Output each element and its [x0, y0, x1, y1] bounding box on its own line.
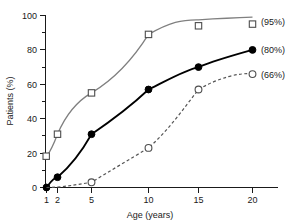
series-label-66pct: (66%) [261, 70, 285, 80]
x-tick-label-5: 5 [89, 195, 94, 205]
y-axis-title: Patients (%) [5, 76, 15, 125]
series-label-80pct: (80%) [261, 45, 285, 55]
series-label-95pct: (95%) [261, 17, 285, 27]
x-tick-label-1: 1 [44, 195, 49, 205]
data-point-66pct-15yr [195, 86, 202, 93]
y-tick-label-100: 100 [22, 11, 37, 21]
data-point-80pct-10yr [145, 86, 152, 93]
y-tick-label-20: 20 [27, 149, 37, 159]
y-tick-label-40: 40 [27, 114, 37, 124]
x-tick-label-10: 10 [143, 195, 153, 205]
y-tick-label-60: 60 [27, 80, 37, 90]
x-tick-label-2: 2 [55, 195, 60, 205]
x-tick-label-15: 15 [193, 195, 203, 205]
data-point-80pct-2yr [54, 174, 61, 181]
line-chart-plot: 100 80 60 40 20 0 1 2 5 10 15 20 Age (ye… [0, 0, 293, 223]
data-point-80pct-20yr [249, 47, 256, 54]
data-point-95pct-15yr [195, 23, 201, 29]
y-tick-label-0: 0 [32, 183, 37, 193]
data-point-66pct-20yr [249, 71, 256, 78]
x-tick-label-20: 20 [247, 195, 257, 205]
data-point-80pct-5yr [88, 131, 95, 138]
data-point-66pct-10yr [145, 145, 152, 152]
y-tick-label-80: 80 [27, 45, 37, 55]
data-point-95pct-20yr [249, 21, 255, 27]
data-point-80pct-15yr [195, 64, 202, 71]
chart-container: 100 80 60 40 20 0 1 2 5 10 15 20 Age (ye… [0, 0, 293, 223]
series-line-80pct [47, 50, 253, 188]
x-axis-title: Age (years) [127, 210, 174, 220]
data-point-95pct-10yr [145, 31, 151, 37]
data-point-66pct-5yr [88, 179, 95, 186]
data-point-95pct-2yr [54, 131, 60, 137]
data-point-95pct-5yr [88, 90, 94, 96]
data-point-95pct-1yr [43, 153, 49, 159]
